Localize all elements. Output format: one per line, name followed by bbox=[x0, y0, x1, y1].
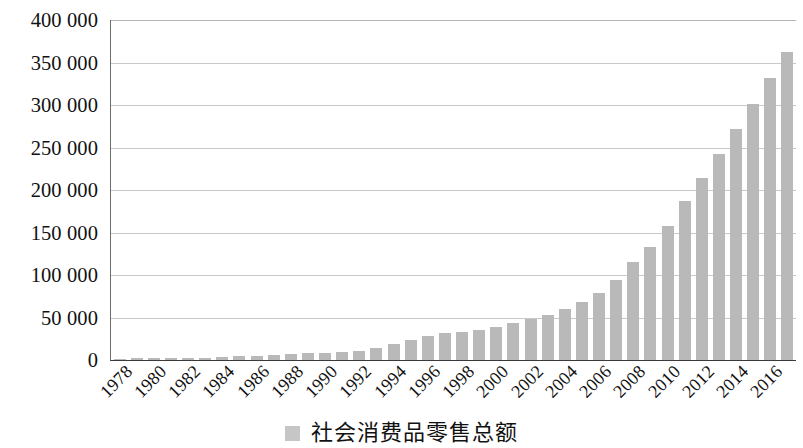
legend-item-retail-sales: 社会消费品零售总额 bbox=[285, 422, 518, 444]
bar bbox=[388, 344, 400, 360]
bar bbox=[233, 356, 245, 360]
x-axis-tick-label: 2014 bbox=[709, 362, 751, 404]
bar bbox=[405, 340, 417, 360]
bar bbox=[593, 293, 605, 360]
bar bbox=[370, 348, 382, 360]
x-axis-tick-label: 2010 bbox=[641, 362, 683, 404]
bar bbox=[148, 358, 160, 360]
y-axis-tick-label: 150 000 bbox=[31, 223, 98, 244]
y-axis-tick-label: 100 000 bbox=[31, 265, 98, 286]
y-axis-tick-label: 400 000 bbox=[31, 10, 98, 31]
bar bbox=[764, 78, 776, 360]
x-axis-tick-label: 2004 bbox=[538, 362, 580, 404]
bar bbox=[747, 104, 759, 360]
x-axis-tick-label: 1978 bbox=[93, 362, 135, 404]
x-axis-tick-label: 1980 bbox=[127, 362, 169, 404]
y-axis-tick-label: 250 000 bbox=[31, 138, 98, 159]
bar bbox=[627, 262, 639, 360]
chart-legend: 社会消费品零售总额 bbox=[0, 418, 803, 448]
x-axis: 1978198019821984198619881990199219941996… bbox=[110, 362, 803, 418]
bar bbox=[268, 355, 280, 360]
y-axis-tick-label: 0 bbox=[88, 350, 98, 371]
legend-item-label: 社会消费品零售总额 bbox=[311, 422, 518, 444]
x-axis-tick-label: 1990 bbox=[298, 362, 340, 404]
y-axis-tick-label: 350 000 bbox=[31, 53, 98, 74]
y-axis-tick-label: 300 000 bbox=[31, 95, 98, 116]
bar bbox=[696, 178, 708, 360]
bar bbox=[730, 129, 742, 360]
bar bbox=[251, 356, 263, 360]
bar bbox=[439, 333, 451, 360]
plot-area bbox=[110, 20, 796, 361]
bar bbox=[473, 330, 485, 360]
bar bbox=[644, 247, 656, 360]
y-axis: 400 000350 000300 000250 000200 000150 0… bbox=[0, 0, 104, 368]
x-axis-tick-label: 2002 bbox=[504, 362, 546, 404]
bar bbox=[525, 319, 537, 360]
bar bbox=[422, 336, 434, 360]
x-axis-tick-label: 1984 bbox=[196, 362, 238, 404]
x-axis-tick-label: 1992 bbox=[333, 362, 375, 404]
x-axis-tick-label: 2008 bbox=[607, 362, 649, 404]
y-axis-tick-label: 50 000 bbox=[41, 308, 98, 329]
x-axis-tick-label: 2006 bbox=[572, 362, 614, 404]
bar bbox=[542, 315, 554, 360]
bar bbox=[199, 358, 211, 360]
bar bbox=[319, 353, 331, 360]
x-axis-tick-label: 1988 bbox=[264, 362, 306, 404]
bar bbox=[559, 309, 571, 360]
bar bbox=[781, 52, 793, 360]
bar bbox=[456, 332, 468, 360]
bar bbox=[662, 226, 674, 360]
bar bbox=[576, 302, 588, 360]
bar bbox=[165, 358, 177, 360]
bar bbox=[131, 358, 143, 360]
bar bbox=[285, 354, 297, 360]
bar bbox=[114, 359, 126, 360]
x-axis-tick-label: 1982 bbox=[161, 362, 203, 404]
bar bbox=[182, 358, 194, 360]
bar bbox=[302, 353, 314, 360]
x-axis-tick-label: 2012 bbox=[675, 362, 717, 404]
bar bbox=[679, 201, 691, 360]
bar bbox=[713, 154, 725, 360]
bar bbox=[507, 323, 519, 360]
bar bbox=[610, 280, 622, 360]
bar bbox=[336, 352, 348, 360]
x-axis-tick-label: 2016 bbox=[744, 362, 786, 404]
legend-swatch-icon bbox=[285, 426, 300, 441]
x-axis-tick-label: 1994 bbox=[367, 362, 409, 404]
x-axis-tick-label: 1998 bbox=[435, 362, 477, 404]
x-axis-tick-label: 1986 bbox=[230, 362, 272, 404]
x-axis-tick-label: 1996 bbox=[401, 362, 443, 404]
y-axis-tick-label: 200 000 bbox=[31, 180, 98, 201]
bar bbox=[353, 351, 365, 360]
bar-chart: 400 000350 000300 000250 000200 000150 0… bbox=[0, 0, 803, 448]
bar bbox=[216, 357, 228, 360]
bar bbox=[490, 327, 502, 360]
bar-series-retail-sales bbox=[111, 20, 796, 360]
x-axis-tick-label: 2000 bbox=[470, 362, 512, 404]
